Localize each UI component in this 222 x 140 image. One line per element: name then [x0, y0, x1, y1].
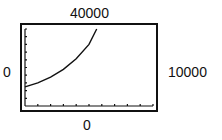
axes — [25, 29, 153, 106]
function-curve — [25, 29, 97, 87]
graph-window — [0, 0, 222, 140]
window-border — [21, 24, 157, 111]
